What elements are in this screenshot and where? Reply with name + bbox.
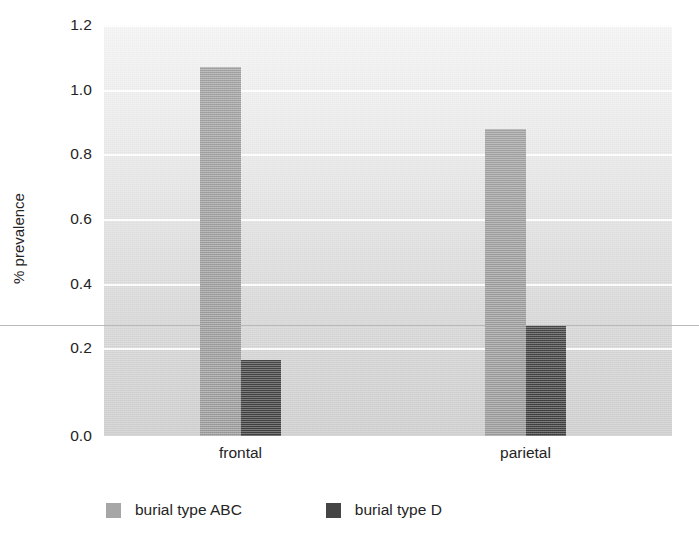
legend: burial type ABC burial type D	[104, 498, 674, 522]
y-tick-label: 0.4	[70, 275, 92, 293]
bar-parietal-burial-type-abc	[485, 129, 526, 436]
legend-label: burial type D	[355, 501, 442, 519]
y-tick-label: 0.6	[70, 210, 92, 228]
x-axis: frontal parietal	[104, 444, 672, 468]
bar-parietal-burial-type-d	[526, 326, 566, 436]
bar-frontal-burial-type-abc	[200, 67, 241, 436]
legend-swatch-icon	[326, 503, 341, 518]
gridline-1-2	[104, 25, 672, 27]
y-tick-label: 0.0	[70, 427, 92, 445]
legend-item-burial-type-d: burial type D	[326, 501, 442, 519]
gridline-0-8	[104, 154, 672, 156]
bar-frontal-burial-type-d	[241, 360, 281, 436]
x-tick-label-frontal: frontal	[219, 444, 262, 462]
y-axis-title: % prevalence	[10, 159, 27, 319]
y-tick-label: 0.2	[70, 339, 92, 357]
gridline-0-2	[104, 348, 672, 350]
y-tick-label: 0.8	[70, 145, 92, 163]
gridline-1-0	[104, 90, 672, 92]
bar-chart-figure: % prevalence 1.2 1.0 0.8 0.6 0.4 0.2 0.0…	[0, 0, 699, 538]
plot-texture-overlay	[104, 25, 672, 436]
plot-area	[104, 25, 672, 436]
gridline-0-6	[104, 219, 672, 221]
legend-item-burial-type-abc: burial type ABC	[106, 501, 242, 519]
y-tick-label: 1.2	[70, 16, 92, 34]
gridline-0-4	[104, 284, 672, 286]
y-axis: % prevalence 1.2 1.0 0.8 0.6 0.4 0.2 0.0	[0, 0, 104, 538]
legend-label: burial type ABC	[135, 501, 242, 519]
reference-line	[0, 325, 699, 326]
legend-swatch-icon	[106, 503, 121, 518]
x-tick-label-parietal: parietal	[500, 444, 551, 462]
y-tick-label: 1.0	[70, 81, 92, 99]
